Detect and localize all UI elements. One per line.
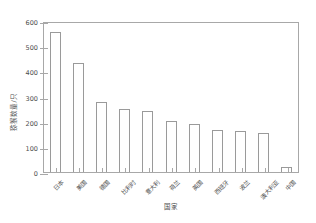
bar-slot <box>206 23 229 172</box>
x-tick-mark <box>125 168 126 172</box>
y-tick-mark-inner <box>44 174 48 175</box>
bar[interactable] <box>258 133 269 173</box>
bar[interactable] <box>142 111 153 172</box>
x-tick-label: 西班牙 <box>214 179 231 196</box>
y-tick-mark-inner <box>44 73 48 74</box>
y-axis-title: 猕猴数量/只 <box>11 93 18 130</box>
x-axis-tick-labels: 日本美国德国比利时意大利荷兰英国西班牙波兰澳大利亚中国 <box>43 173 299 203</box>
x-tick-mark <box>102 168 103 172</box>
bar[interactable] <box>119 109 130 172</box>
bar-slot <box>252 23 275 172</box>
x-tick-mark <box>195 168 196 172</box>
plot-area: 0100200300400500600 <box>43 22 299 173</box>
x-axis-title: 国家 <box>43 204 299 211</box>
x-tick-label: 意大利 <box>144 179 161 196</box>
x-tick-label: 德国 <box>99 179 112 192</box>
bar[interactable] <box>189 124 200 172</box>
x-tick-label: 荷兰 <box>168 179 181 192</box>
x-tick-label: 英国 <box>192 179 205 192</box>
bar-slot <box>183 23 206 172</box>
bar-slot <box>67 23 90 172</box>
bar[interactable] <box>281 167 292 172</box>
x-tick-label-slot: 日本 <box>43 173 66 203</box>
y-tick-label: 300 <box>26 95 38 102</box>
bar-slot <box>159 23 182 172</box>
x-tick-label-slot: 美国 <box>66 173 89 203</box>
x-tick-label-slot: 意大利 <box>136 173 159 203</box>
y-tick-mark-inner <box>44 149 48 150</box>
bar-chart-figure: 猕猴数量/只 0100200300400500600 日本美国德国比利时意大利荷… <box>0 0 316 223</box>
x-tick-mark <box>79 168 80 172</box>
bar-slot <box>229 23 252 172</box>
y-tick-label: 500 <box>26 45 38 52</box>
y-tick-label: 200 <box>26 120 38 127</box>
y-tick-label: 400 <box>26 70 38 77</box>
bar[interactable] <box>96 102 107 172</box>
bar[interactable] <box>212 130 223 172</box>
x-tick-label-slot: 比利时 <box>113 173 136 203</box>
y-tick-mark-inner <box>44 124 48 125</box>
x-tick-label: 日本 <box>52 179 65 192</box>
bar-series <box>44 23 298 172</box>
bar-slot <box>136 23 159 172</box>
bar[interactable] <box>235 131 246 172</box>
x-tick-label-slot: 澳大利亚 <box>252 173 275 203</box>
bar[interactable] <box>73 63 84 172</box>
bar-slot <box>90 23 113 172</box>
x-tick-mark <box>172 168 173 172</box>
x-tick-mark <box>242 168 243 172</box>
y-tick-label: 600 <box>26 20 38 27</box>
bar[interactable] <box>50 32 61 172</box>
x-tick-mark <box>265 168 266 172</box>
x-tick-mark <box>149 168 150 172</box>
x-tick-label-slot: 德国 <box>90 173 113 203</box>
y-tick-mark-inner <box>44 23 48 24</box>
x-tick-label: 澳大利亚 <box>259 179 280 200</box>
y-tick-mark-inner <box>44 48 48 49</box>
x-tick-label-slot: 荷兰 <box>159 173 182 203</box>
y-tick-label: 0 <box>34 171 38 178</box>
x-tick-label-slot: 西班牙 <box>206 173 229 203</box>
x-tick-label-slot: 英国 <box>183 173 206 203</box>
x-tick-label: 波兰 <box>238 179 251 192</box>
bar-slot <box>113 23 136 172</box>
x-tick-label-slot: 中国 <box>276 173 299 203</box>
x-tick-mark <box>288 168 289 172</box>
x-tick-label: 比利时 <box>121 179 138 196</box>
y-tick-label: 100 <box>26 146 38 153</box>
x-tick-label-slot: 波兰 <box>229 173 252 203</box>
bar[interactable] <box>166 121 177 172</box>
bar-slot <box>275 23 298 172</box>
x-tick-mark <box>219 168 220 172</box>
y-tick-mark-inner <box>44 99 48 100</box>
x-tick-label: 中国 <box>285 179 298 192</box>
x-tick-label: 美国 <box>75 179 88 192</box>
x-tick-mark <box>56 168 57 172</box>
